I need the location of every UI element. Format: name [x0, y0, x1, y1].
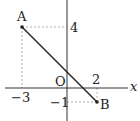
tick-y-4: 4 — [70, 20, 78, 35]
tick-x-neg3: −3 — [11, 90, 30, 105]
origin-label: O — [55, 74, 66, 89]
tick-x-2: 2 — [92, 72, 100, 87]
x-axis-label: x — [130, 79, 138, 94]
diagram-svg: A B O x 4 −1 2 −3 — [0, 0, 140, 121]
point-a — [20, 25, 24, 29]
label-b: B — [100, 97, 110, 112]
coordinate-diagram: A B O x 4 −1 2 −3 — [0, 0, 140, 121]
tick-y-neg1: −1 — [50, 95, 69, 110]
segment-ab — [22, 27, 97, 102]
point-b — [95, 100, 99, 104]
label-a: A — [16, 9, 27, 24]
